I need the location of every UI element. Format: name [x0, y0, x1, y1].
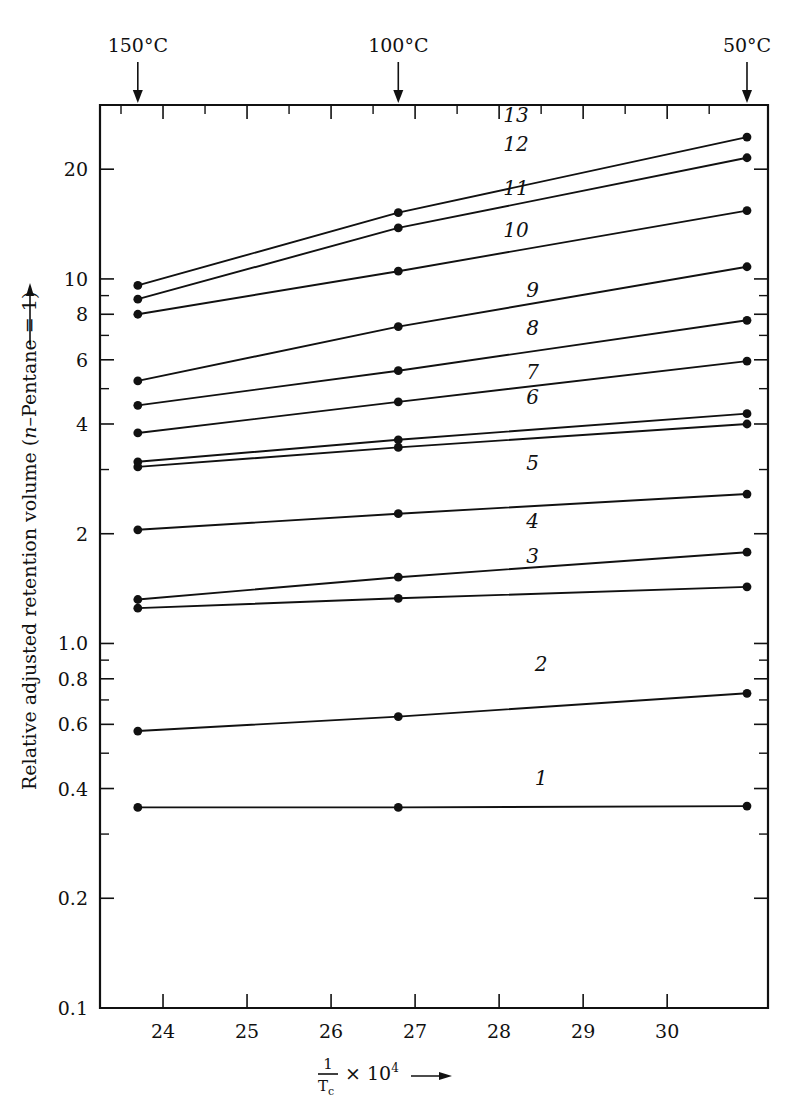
data-point	[133, 595, 142, 604]
series-line-11	[138, 211, 747, 315]
temperature-label: 150°C	[108, 34, 168, 56]
curve-label-8: 8	[526, 316, 539, 340]
curve-label-2: 2	[534, 652, 548, 676]
figure-container: Relative adjusted retention volume (n–Pe…	[0, 0, 811, 1116]
data-point	[394, 712, 403, 721]
data-point	[133, 377, 142, 386]
data-point	[743, 316, 752, 325]
data-point	[133, 295, 142, 304]
data-point	[743, 802, 752, 811]
x-tick-label: 28	[487, 1020, 511, 1042]
x-tick-label: 26	[319, 1020, 343, 1042]
temperature-annotations: 150°C100°C50°C	[108, 34, 771, 103]
data-point	[743, 133, 752, 142]
data-point	[133, 401, 142, 410]
data-point	[133, 429, 142, 438]
temperature-arrow-head	[393, 90, 403, 103]
y-tick-label: 8	[76, 303, 88, 325]
x-axis-title-arrow-head	[439, 1072, 452, 1080]
svg-text:Relative adjusted retention vo: Relative adjusted retention volume (n–Pe…	[18, 292, 40, 790]
data-point	[394, 443, 403, 452]
x-tick-label: 27	[403, 1020, 427, 1042]
data-point	[133, 525, 142, 534]
data-point	[394, 573, 403, 582]
data-point	[743, 409, 752, 418]
temperature-arrow-head	[133, 90, 143, 103]
y-axis-title: Relative adjusted retention volume (n–Pe…	[18, 283, 40, 790]
y-tick-label: 0.2	[58, 887, 88, 909]
data-point	[133, 281, 142, 290]
retention-volume-log-chart: Relative adjusted retention volume (n–Pe…	[0, 0, 811, 1116]
data-point	[394, 224, 403, 233]
data-point	[133, 310, 142, 319]
data-point	[743, 206, 752, 215]
curve-label-12: 12	[503, 132, 528, 156]
data-point	[133, 803, 142, 812]
x-tick-label: 30	[655, 1020, 679, 1042]
x-axis-title-denominator: Tc	[318, 1077, 334, 1098]
x-tick-label: 24	[151, 1020, 175, 1042]
data-point	[394, 267, 403, 276]
y-tick-label: 0.1	[58, 997, 88, 1019]
series-line-2	[138, 693, 747, 731]
temperature-arrow-head	[742, 90, 752, 103]
data-point	[743, 582, 752, 591]
series-line-4	[138, 552, 747, 599]
y-tick-label: 0.6	[58, 713, 88, 735]
x-axis-title: 1 Tc × 104	[318, 1055, 452, 1098]
data-point	[394, 322, 403, 331]
data-point	[394, 397, 403, 406]
curve-label-11: 11	[503, 176, 528, 200]
curve-label-5: 5	[526, 451, 539, 475]
x-tick-label: 29	[571, 1020, 595, 1042]
y-tick-label: 20	[64, 158, 88, 180]
x-axis-title-numerator: 1	[323, 1055, 333, 1073]
series-line-8	[138, 361, 747, 433]
data-point	[743, 548, 752, 557]
data-point	[743, 420, 752, 429]
data-point	[743, 153, 752, 162]
data-point	[133, 727, 142, 736]
temperature-label: 50°C	[723, 34, 771, 56]
series-line-6	[138, 424, 747, 467]
y-tick-label: 6	[76, 349, 88, 371]
series-line-7	[138, 414, 747, 462]
y-tick-label: 0.4	[58, 778, 88, 800]
curve-label-10: 10	[503, 218, 529, 242]
data-curves	[138, 137, 747, 807]
series-line-1	[138, 806, 747, 807]
curve-label-13: 13	[503, 103, 528, 127]
curve-label-1: 1	[535, 766, 548, 790]
y-tick-label: 10	[64, 268, 88, 290]
plot-frame	[100, 105, 768, 1008]
series-line-12	[138, 158, 747, 299]
axis-ticks	[100, 105, 768, 1008]
curve-label-9: 9	[526, 278, 539, 302]
data-point	[743, 689, 752, 698]
data-point	[394, 594, 403, 603]
data-point	[394, 435, 403, 444]
y-tick-label: 4	[76, 413, 88, 435]
x-tick-label: 25	[235, 1020, 259, 1042]
data-point	[743, 262, 752, 271]
data-point	[743, 357, 752, 366]
data-point-markers	[133, 133, 751, 812]
data-point	[133, 604, 142, 613]
y-tick-label: 1.0	[58, 632, 88, 654]
data-point	[394, 509, 403, 518]
y-axis-title-arrow-head	[26, 283, 34, 296]
curve-label-4: 4	[525, 509, 539, 533]
y-tick-label: 0.8	[58, 668, 88, 690]
curve-label-6: 6	[526, 385, 539, 409]
data-point	[394, 366, 403, 375]
curve-label-7: 7	[526, 360, 539, 384]
data-point	[133, 457, 142, 466]
series-line-5	[138, 494, 747, 530]
x-axis-title-rest: × 104	[345, 1061, 399, 1084]
y-axis-title-text-b: –Pentane = 1)	[18, 292, 40, 427]
plot-border	[100, 105, 768, 1008]
y-axis-title-italic-n: n	[18, 427, 40, 439]
temperature-label: 100°C	[368, 34, 428, 56]
series-line-3	[138, 587, 747, 608]
y-tick-label: 2	[76, 523, 88, 545]
